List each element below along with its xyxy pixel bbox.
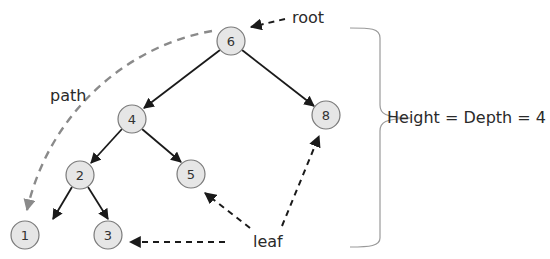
leaf-label: leaf: [253, 232, 283, 251]
svg-text:3: 3: [104, 228, 112, 243]
svg-text:4: 4: [128, 112, 136, 127]
leaf-pointer-8: [282, 136, 319, 226]
path-label: path: [50, 86, 86, 105]
edge-2-1: [53, 187, 72, 219]
node-6: 6: [217, 27, 245, 55]
node-4: 4: [118, 105, 146, 133]
edge-2-3: [88, 187, 108, 219]
svg-text:1: 1: [21, 228, 29, 243]
svg-text:8: 8: [322, 108, 330, 123]
node-3: 3: [94, 221, 122, 249]
svg-text:6: 6: [227, 34, 235, 49]
svg-text:5: 5: [187, 167, 195, 182]
edge-4-5: [142, 129, 181, 162]
height-depth-label: Height = Depth = 4: [387, 108, 546, 127]
node-8: 8: [312, 101, 340, 129]
height-brace: [350, 28, 410, 247]
tree-edges: [53, 50, 314, 219]
root-pointer: [251, 19, 285, 27]
edge-6-8: [242, 50, 314, 106]
node-1: 1: [11, 221, 39, 249]
svg-text:2: 2: [76, 168, 84, 183]
tree-diagram: 6 4 8 2 5 1 3 root path leaf Height = De…: [0, 0, 550, 259]
node-2: 2: [66, 161, 94, 189]
edge-4-2: [91, 129, 122, 163]
edge-6-4: [144, 50, 220, 108]
tree-nodes: 6 4 8 2 5 1 3: [11, 27, 340, 249]
root-label: root: [292, 8, 324, 27]
node-5: 5: [177, 160, 205, 188]
leaf-pointer-5: [205, 193, 250, 228]
